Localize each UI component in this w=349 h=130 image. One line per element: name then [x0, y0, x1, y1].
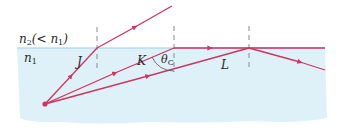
- medium-label-n2: n2(< n1): [19, 33, 68, 49]
- light-source: [42, 101, 47, 106]
- ray-label-j: J: [77, 56, 82, 68]
- ray-label-k: K: [137, 55, 146, 67]
- medium-label-n1: n1: [24, 52, 37, 68]
- critical-angle-label: θC: [161, 54, 174, 69]
- ray-label-l: L: [221, 59, 229, 71]
- total-internal-reflection-diagram: [0, 0, 349, 130]
